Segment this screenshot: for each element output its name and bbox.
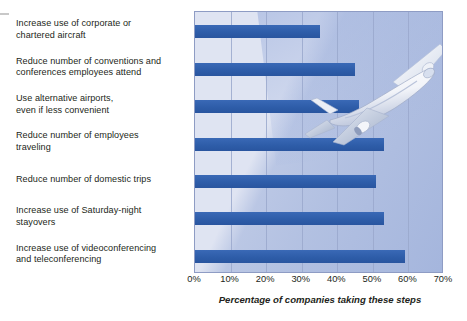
bar-3 [195, 100, 359, 113]
category-label-3: Use alternative airports,even if less co… [16, 93, 192, 116]
category-label-5: Reduce number of domestic trips [16, 174, 192, 186]
chart-figure: Increase use of corporate orchartered ai… [0, 0, 467, 321]
plot-area [194, 11, 443, 273]
x-tick-60: 60% [398, 274, 417, 284]
category-label-line: Reduce number of conventions and [16, 56, 192, 68]
category-label-line: Increase use of videoconferencing [16, 243, 192, 255]
category-label-6: Increase use of Saturday-nightstayovers [16, 205, 192, 228]
airplane-icon [297, 38, 443, 146]
category-label-4: Reduce number of employeestraveling [16, 130, 192, 153]
x-tick-0: 0% [187, 274, 200, 284]
category-label-line: stayovers [16, 217, 192, 229]
bar-6 [195, 212, 384, 225]
bar-4 [195, 138, 384, 151]
category-label-line: even if less convenient [16, 105, 192, 117]
category-label-column: Increase use of corporate orchartered ai… [16, 12, 188, 270]
category-label-line: chartered aircraft [16, 30, 192, 42]
category-label-line: Use alternative airports, [16, 93, 192, 105]
category-label-line: Reduce number of employees [16, 130, 192, 142]
category-label-line: Reduce number of domestic trips [16, 174, 192, 186]
category-label-line: conferences employees attend [16, 67, 192, 79]
category-label-line: traveling [16, 142, 192, 154]
bar-1 [195, 25, 320, 38]
bar-2 [195, 63, 355, 76]
bar-5 [195, 175, 376, 188]
category-label-1: Increase use of corporate orchartered ai… [16, 18, 192, 41]
x-axis-ticks: 0%10%20%30%40%50%60%70% [194, 274, 443, 288]
gridline-60 [408, 12, 409, 272]
x-tick-20: 20% [256, 274, 275, 284]
x-axis-label: Percentage of companies taking these ste… [194, 294, 446, 305]
category-label-line: Increase use of Saturday-night [16, 205, 192, 217]
category-label-line: and teleconferencing [16, 254, 192, 266]
category-label-7: Increase use of videoconferencingand tel… [16, 243, 192, 266]
x-tick-50: 50% [363, 274, 382, 284]
category-label-line: Increase use of corporate or [16, 18, 192, 30]
x-tick-40: 40% [327, 274, 346, 284]
bar-7 [195, 250, 405, 263]
x-tick-70: 70% [434, 274, 453, 284]
category-label-2: Reduce number of conventions andconferen… [16, 56, 192, 79]
x-tick-10: 10% [220, 274, 239, 284]
crop-artifact-dash [0, 13, 9, 15]
x-tick-30: 30% [291, 274, 310, 284]
